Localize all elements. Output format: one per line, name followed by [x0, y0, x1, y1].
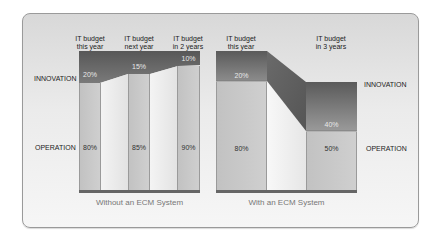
right-innovation-value-1: 20% [216, 72, 267, 79]
right-innovation-label: INNOVATION [364, 81, 407, 88]
title-line: IT budget [211, 35, 271, 43]
left-baseline [79, 190, 200, 193]
left-innovation-value-1: 20% [79, 71, 101, 78]
left-operation-value-3: 90% [177, 144, 200, 151]
right-col-title-1: IT budget this year [211, 35, 271, 51]
right-caption: With an ECM System [216, 198, 357, 207]
left-operation-bar-2 [128, 74, 150, 191]
title-line: this year [211, 43, 271, 51]
title-line: IT budget [158, 35, 218, 43]
left-operation-bar-3 [177, 66, 200, 191]
left-operation-bar-1 [79, 83, 101, 191]
right-col-title-2: IT budget in 3 years [301, 35, 361, 51]
left-operation-value-2: 85% [128, 144, 150, 151]
right-operation-bar-1 [216, 82, 267, 191]
left-operation-label: OPERATION [35, 144, 76, 151]
right-operation-value-1: 80% [216, 145, 267, 152]
title-line: in 3 years [301, 43, 361, 51]
title-line: in 2 years [158, 43, 218, 51]
right-operation-label: OPERATION [366, 145, 407, 152]
right-operation-value-2: 50% [306, 145, 357, 152]
left-innovation-label: INNOVATION [34, 75, 77, 82]
left-operation-value-1: 80% [79, 144, 101, 151]
right-baseline [216, 190, 357, 193]
left-col-title-3: IT budget in 2 years [158, 35, 218, 51]
left-innovation-value-3: 10% [177, 55, 200, 62]
right-operation-bar-2 [306, 132, 357, 191]
left-caption: Without an ECM System [79, 198, 200, 207]
right-innovation-value-2: 40% [306, 121, 357, 128]
title-line: IT budget [301, 35, 361, 43]
left-innovation-value-2: 15% [128, 63, 150, 70]
